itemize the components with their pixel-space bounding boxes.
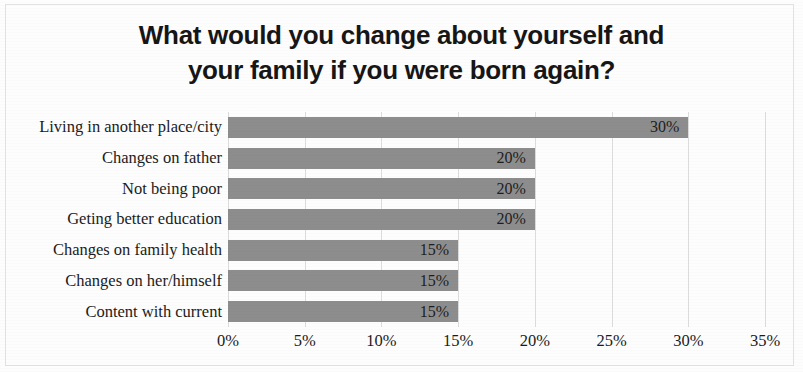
bar-value-label: 20%	[497, 180, 526, 198]
category-axis-labels: Living in another place/cityChanges on f…	[8, 112, 222, 327]
x-tick-label: 15%	[443, 331, 473, 351]
bar-value-label: 15%	[420, 241, 449, 259]
category-label: Not being poor	[8, 173, 222, 204]
category-label: Changes on family health	[8, 235, 222, 266]
bar-row: 20%	[228, 204, 765, 235]
category-label: Changes on father	[8, 143, 222, 174]
bar-value-label: 20%	[497, 149, 526, 167]
chart-title: What would you change about yourself and…	[0, 18, 803, 88]
bar: 30%	[228, 117, 688, 138]
bar-value-label: 15%	[420, 303, 449, 321]
category-label: Changes on her/himself	[8, 266, 222, 297]
bar: 15%	[228, 240, 458, 261]
bar-row: 15%	[228, 296, 765, 327]
x-axis-tick-labels: 0%5%10%15%20%25%30%35%	[228, 331, 765, 357]
category-label: Content with current	[8, 296, 222, 327]
x-tick-label: 30%	[673, 331, 703, 351]
bar-row: 15%	[228, 266, 765, 297]
x-tick-label: 5%	[294, 331, 316, 351]
bar-row: 15%	[228, 235, 765, 266]
category-label: Living in another place/city	[8, 112, 222, 143]
bar: 20%	[228, 209, 535, 230]
x-tick-label: 10%	[366, 331, 396, 351]
x-tick-label: 25%	[596, 331, 626, 351]
bar: 20%	[228, 178, 535, 199]
plot-area: 30%20%20%20%15%15%15%	[228, 112, 765, 327]
bar-row: 30%	[228, 112, 765, 143]
x-tick-label: 0%	[217, 331, 239, 351]
bar: 15%	[228, 301, 458, 322]
bar: 15%	[228, 270, 458, 291]
x-tick-label: 20%	[520, 331, 550, 351]
bar: 20%	[228, 148, 535, 169]
x-tick-label: 35%	[750, 331, 780, 351]
gridline	[765, 112, 766, 327]
bar-series: 30%20%20%20%15%15%15%	[228, 112, 765, 327]
category-label: Geting better education	[8, 204, 222, 235]
chart-figure: What would you change about yourself and…	[0, 0, 803, 372]
bar-row: 20%	[228, 143, 765, 174]
bar-value-label: 20%	[497, 210, 526, 228]
bar-value-label: 15%	[420, 272, 449, 290]
bar-row: 20%	[228, 173, 765, 204]
bar-value-label: 30%	[650, 118, 679, 136]
